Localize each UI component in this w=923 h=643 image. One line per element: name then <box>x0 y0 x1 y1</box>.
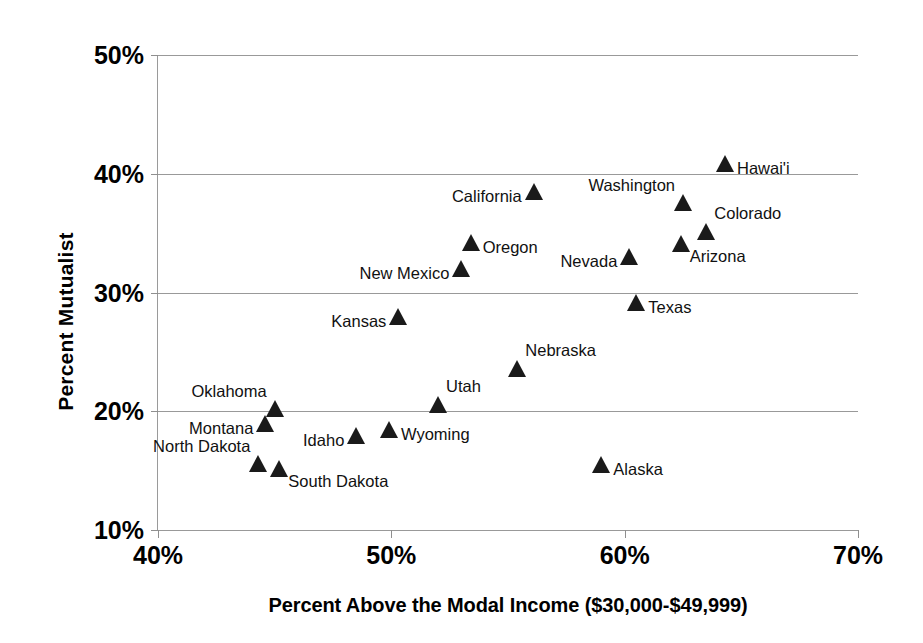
data-point-label: Idaho <box>303 432 344 449</box>
gridline <box>158 411 858 412</box>
data-point-label: Colorado <box>714 205 781 222</box>
triangle-marker-icon <box>380 421 398 438</box>
x-tick-mark <box>858 530 859 538</box>
triangle-marker-icon <box>249 455 267 472</box>
y-axis-title: Percent Mutualist <box>44 0 88 643</box>
x-tick-mark <box>625 530 626 538</box>
triangle-marker-icon <box>716 155 734 172</box>
data-point-label: Nevada <box>560 253 617 270</box>
data-point-label: Utah <box>446 378 481 395</box>
y-tick-mark <box>151 411 158 412</box>
y-tick-mark <box>151 55 158 56</box>
triangle-marker-icon <box>347 427 365 444</box>
x-tick-mark <box>391 530 392 538</box>
gridline <box>158 293 858 294</box>
triangle-marker-icon <box>266 400 284 417</box>
x-tick-label: 40% <box>133 541 183 570</box>
data-point-label: Oklahoma <box>191 383 266 400</box>
y-tick-mark <box>151 530 158 531</box>
triangle-marker-icon <box>525 183 543 200</box>
y-tick-label: 30% <box>94 278 144 307</box>
triangle-marker-icon <box>270 460 288 477</box>
triangle-marker-icon <box>674 194 692 211</box>
data-point-label: Wyoming <box>401 426 470 443</box>
triangle-marker-icon <box>672 235 690 252</box>
triangle-marker-icon <box>429 396 447 413</box>
data-point-label: California <box>452 188 522 205</box>
triangle-marker-icon <box>256 415 274 432</box>
triangle-marker-icon <box>452 260 470 277</box>
data-point-label: Arizona <box>690 248 746 265</box>
data-point-label: Hawai'i <box>737 160 790 177</box>
x-axis-title: Percent Above the Modal Income ($30,000-… <box>158 594 858 617</box>
gridline <box>158 530 858 531</box>
triangle-marker-icon <box>389 308 407 325</box>
data-point-label: Washington <box>588 177 675 194</box>
data-point-label: Montana <box>189 420 253 437</box>
y-tick-label: 50% <box>94 41 144 70</box>
data-point-label: Texas <box>648 299 691 316</box>
data-point-label: Nebraska <box>525 342 596 359</box>
plot-area: 50%40%30%20%10% 40%50%60%70% Hawai'iCali… <box>158 55 858 530</box>
triangle-marker-icon <box>462 234 480 251</box>
triangle-marker-icon <box>508 360 526 377</box>
x-tick-label: 70% <box>833 541 883 570</box>
data-point-label: New Mexico <box>359 265 449 282</box>
triangle-marker-icon <box>620 248 638 265</box>
gridline <box>158 55 858 56</box>
y-tick-mark <box>151 174 158 175</box>
x-tick-mark <box>158 530 159 538</box>
y-tick-label: 40% <box>94 159 144 188</box>
data-point-label: Kansas <box>331 313 386 330</box>
x-tick-label: 60% <box>600 541 650 570</box>
triangle-marker-icon <box>592 456 610 473</box>
y-tick-label: 20% <box>94 397 144 426</box>
data-point-label: South Dakota <box>288 473 388 490</box>
x-tick-label: 50% <box>366 541 416 570</box>
triangle-marker-icon <box>697 223 715 240</box>
data-point-label: Alaska <box>613 461 663 478</box>
data-point-label: Oregon <box>483 239 538 256</box>
y-tick-mark <box>151 293 158 294</box>
data-point-label: North Dakota <box>153 438 250 455</box>
scatter-plot-figure: Percent Mutualist Percent Above the Moda… <box>0 0 923 643</box>
triangle-marker-icon <box>627 294 645 311</box>
